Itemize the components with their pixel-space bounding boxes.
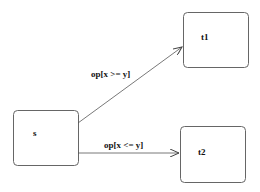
diagram-canvas — [0, 0, 260, 192]
node-s-label: s — [33, 128, 37, 138]
edge-s-t1-label: op[x >= y] — [91, 69, 130, 79]
edge-s-t1-arrow[interactable] — [78, 47, 182, 123]
edge-s-t2-label: op[x <= y] — [104, 140, 143, 150]
node-s-box[interactable] — [14, 111, 79, 166]
node-t1-label: t1 — [201, 32, 209, 42]
node-t2-label: t2 — [198, 147, 206, 157]
node-t2-box[interactable] — [181, 127, 246, 183]
node-t1-box[interactable] — [184, 13, 249, 68]
